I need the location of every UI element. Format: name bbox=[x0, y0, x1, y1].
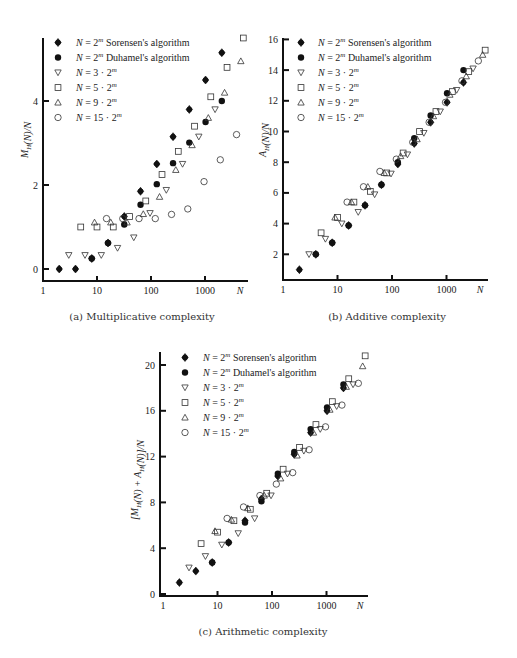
legend: N = 2m Sorensen's algorithmN = 2m Duhame… bbox=[55, 36, 190, 123]
legend-label-3: N = 5 · 2m bbox=[75, 81, 117, 93]
data-point bbox=[221, 89, 227, 95]
x-tick-label: 10 bbox=[333, 284, 343, 295]
data-point bbox=[173, 167, 179, 173]
data-point bbox=[362, 353, 368, 359]
legend-marker-square bbox=[182, 400, 188, 406]
data-point-core bbox=[297, 267, 302, 272]
data-point-core bbox=[187, 107, 192, 112]
data-point bbox=[359, 363, 365, 369]
y-tick-label: 20 bbox=[145, 360, 155, 371]
legend-marker-square bbox=[298, 85, 304, 91]
x-tick-label: 1 bbox=[161, 600, 166, 611]
caption-c: (c) Arithmetic complexity bbox=[199, 626, 328, 637]
y-tick-label: 2 bbox=[33, 180, 38, 191]
series-down-triangle bbox=[186, 382, 356, 571]
legend-marker-square bbox=[55, 85, 61, 91]
data-point bbox=[339, 221, 345, 227]
legend: N = 2m Sorensen's algorithmN = 2m Duhame… bbox=[298, 36, 432, 123]
legend-marker-filled-circle bbox=[55, 54, 61, 60]
x-tick-label: 100 bbox=[265, 600, 280, 611]
x-tick-label: 100 bbox=[144, 285, 159, 296]
data-point bbox=[66, 253, 72, 259]
data-point bbox=[332, 214, 338, 220]
data-point bbox=[105, 240, 111, 246]
data-point bbox=[147, 211, 153, 217]
data-point bbox=[201, 178, 207, 184]
y-axis-label: MH(N)/N bbox=[19, 121, 34, 160]
series-square bbox=[78, 35, 246, 230]
data-point bbox=[378, 182, 384, 188]
legend-label-1: N = 2m Duhamel's algorithm bbox=[317, 51, 432, 63]
data-point bbox=[306, 447, 312, 453]
legend-label-0: N = 2m Sorensen's algorithm bbox=[75, 36, 190, 48]
chart-a: 1101001000N024MH(N)/NN = 2m Sorensen's a… bbox=[19, 35, 248, 296]
data-point bbox=[78, 224, 84, 230]
x-tick-label: 1000 bbox=[317, 600, 337, 611]
data-point bbox=[98, 253, 104, 259]
data-point bbox=[240, 504, 246, 510]
legend-label-1: N = 2m Duhamel's algorithm bbox=[202, 366, 317, 378]
data-point bbox=[224, 515, 230, 521]
legend-label-4: N = 9 · 2m bbox=[75, 96, 117, 108]
data-point bbox=[318, 230, 324, 236]
data-point bbox=[217, 157, 223, 163]
legend-label-0: N = 2m Sorensen's algorithm bbox=[317, 36, 432, 48]
y-tick-label: 16 bbox=[145, 405, 155, 416]
data-point bbox=[242, 519, 248, 525]
x-tick-label: 1 bbox=[41, 285, 46, 296]
data-point bbox=[346, 376, 352, 382]
data-point bbox=[152, 215, 158, 221]
legend-marker-filled-diamond-core bbox=[298, 40, 303, 45]
data-point bbox=[339, 402, 345, 408]
data-point bbox=[479, 52, 485, 58]
series-filled-circle bbox=[209, 381, 347, 565]
legend-marker-filled-diamond-core bbox=[55, 40, 60, 45]
series-filled-circle bbox=[313, 67, 467, 258]
y-tick-label: 12 bbox=[145, 451, 155, 462]
data-point-core bbox=[193, 568, 198, 573]
data-point bbox=[175, 149, 181, 155]
data-point bbox=[290, 469, 296, 475]
y-tick-label: 8 bbox=[150, 497, 155, 508]
legend: N = 2m Sorensen's algorithmN = 2m Duhame… bbox=[182, 351, 317, 438]
data-point bbox=[136, 215, 142, 221]
y-tick-label: 4 bbox=[273, 218, 278, 229]
data-point bbox=[240, 35, 246, 41]
y-tick-label: 12 bbox=[268, 95, 278, 106]
legend-marker-down-triangle bbox=[182, 385, 188, 391]
legend-label-5: N = 15 · 2m bbox=[75, 111, 122, 123]
legend-marker-up-triangle bbox=[182, 414, 188, 420]
legend-label-0: N = 2m Sorensen's algorithm bbox=[202, 351, 317, 363]
data-point bbox=[313, 251, 319, 257]
data-point bbox=[322, 236, 328, 242]
x-tick-label: 10 bbox=[92, 285, 102, 296]
data-point bbox=[377, 168, 383, 174]
legend-label-2: N = 3 · 2m bbox=[317, 66, 359, 78]
legend-marker-filled-circle bbox=[182, 369, 188, 375]
data-point bbox=[329, 240, 335, 246]
data-point bbox=[355, 380, 361, 386]
caption-a: (a) Multiplicative complexity bbox=[69, 311, 215, 322]
data-point bbox=[168, 211, 174, 217]
data-point bbox=[159, 172, 165, 178]
data-point bbox=[198, 541, 204, 547]
y-tick-label: 0 bbox=[150, 589, 155, 600]
data-point bbox=[114, 245, 120, 251]
legend-marker-circle bbox=[55, 114, 61, 120]
data-point bbox=[381, 170, 387, 176]
series-filled-diamond bbox=[176, 384, 346, 587]
legend-marker-down-triangle bbox=[55, 70, 61, 76]
figure-canvas: 1101001000N024MH(N)/NN = 2m Sorensen's a… bbox=[0, 0, 517, 658]
data-point bbox=[273, 481, 279, 487]
data-point bbox=[404, 152, 410, 158]
data-point bbox=[212, 107, 218, 113]
data-point bbox=[371, 192, 377, 198]
chart-b: 1101001000N246810121416AH(N)/NN = 2m Sor… bbox=[257, 34, 488, 295]
x-tick-label: 100 bbox=[385, 284, 400, 295]
data-point-core bbox=[138, 189, 143, 194]
chart-c: 1101001000N048121620[MH(N) + AH(N)]/NN =… bbox=[129, 351, 368, 611]
legend-label-1: N = 2m Duhamel's algorithm bbox=[75, 51, 190, 63]
legend-label-4: N = 9 · 2m bbox=[317, 96, 359, 108]
data-point bbox=[219, 98, 225, 104]
data-point-core bbox=[154, 161, 159, 166]
